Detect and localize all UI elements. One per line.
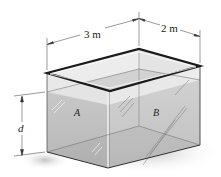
label-compartment-b: B [153,107,159,118]
label-compartment-a: A [73,107,81,118]
tank-diagram: 3 m 2 m d A B [0,0,221,177]
label-width: 2 m [161,22,178,34]
label-depth: d [18,122,24,134]
label-length: 3 m [84,28,101,40]
